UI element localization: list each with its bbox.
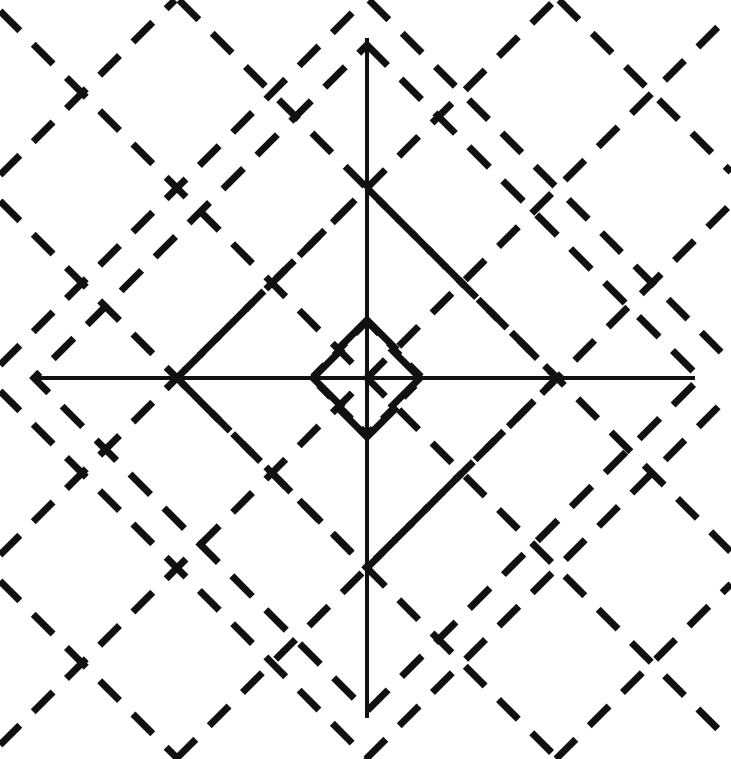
figure-root bbox=[0, 0, 731, 759]
diamond-metric-diagram bbox=[0, 0, 731, 759]
